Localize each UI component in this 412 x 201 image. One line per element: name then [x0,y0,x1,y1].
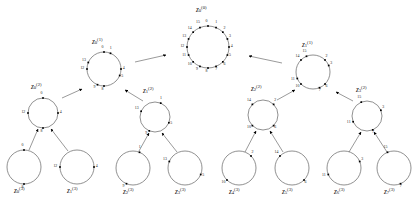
node-point-0 [42,97,44,99]
point-index-label-9: 9 [196,68,198,72]
node-point-14 [279,155,281,157]
point-index-label-6: 6 [305,181,307,185]
point-index-label-0: 0 [102,46,104,50]
node-n9 [116,151,150,185]
node-point-4 [93,166,95,168]
point-index-label-2: 2 [274,99,276,103]
point-index-label-0: 0 [41,92,43,96]
node-n6 [352,101,382,131]
node-point-13 [140,110,142,112]
node-point-14 [192,31,194,33]
node-label-superscript: (2) [36,82,41,87]
node-label-superscript: (2) [148,86,153,91]
node-label-n3: z0(2) [31,83,41,91]
node-label-n5: z2(2) [251,85,261,93]
point-index-label-10: 10 [296,85,300,89]
point-index-label-7: 7 [372,131,374,135]
node-circle [352,101,382,131]
point-index-label-3: 3 [229,35,231,39]
node-circle [140,102,170,132]
point-index-label-11: 11 [182,54,186,58]
edge-arrow-n4-to-n1 [125,90,143,101]
node-point-11 [296,78,298,80]
node-label-n8: z1(3) [67,187,77,195]
point-index-label-9: 9 [93,86,95,90]
node-point-13 [168,161,170,163]
node-label-n14: z7(3) [384,188,394,196]
node-point-0 [23,149,25,151]
node-point-1 [139,151,141,153]
node-point-2 [273,104,275,106]
node-label-superscript: (2) [361,85,366,90]
node-label-n2: z1(1) [302,41,312,49]
node-point-4 [57,112,59,114]
node-point-1 [160,102,162,104]
point-index-label-0: 0 [206,20,208,24]
node-label-superscript: (3) [287,187,292,192]
point-index-label-13: 13 [82,59,86,63]
point-index-label-2: 2 [252,151,254,155]
node-n1 [86,51,122,87]
point-index-label-12: 12 [21,111,25,115]
node-label-n13: z6(3) [334,188,344,196]
node-n4 [140,102,170,132]
point-index-label-12: 12 [53,165,57,169]
node-label-n1: z0(1) [92,38,102,46]
node-circle [87,52,121,86]
node-point-12 [59,166,61,168]
edge-arrow-n13-to-n6 [349,132,361,152]
node-point-12 [186,46,188,48]
node-circle [28,98,58,128]
point-index-label-1: 1 [139,146,141,150]
node-label-superscript: (3) [389,187,394,192]
point-index-label-3: 3 [382,106,384,110]
node-n14 [377,151,411,185]
node-n11 [222,151,256,185]
point-index-label-14: 14 [247,99,251,103]
node-point-11 [327,174,329,176]
point-index-label-8: 8 [41,130,43,134]
node-point-4 [228,46,230,48]
point-index-label-0: 0 [22,144,24,148]
node-label-superscript: (3) [19,186,24,191]
node-point-9 [97,84,99,86]
point-index-label-15: 15 [383,146,387,150]
point-index-label-10: 10 [188,63,192,67]
node-point-10 [226,179,228,181]
node-n3 [27,97,59,129]
point-index-label-5: 5 [121,75,123,79]
node-point-10 [192,61,194,63]
node-circle [168,151,202,185]
node-label-superscript: (3) [128,187,133,192]
point-index-label-15: 15 [357,96,361,100]
point-index-label-13: 13 [182,35,186,39]
point-index-label-8: 8 [206,70,208,74]
point-index-label-9: 9 [145,132,147,136]
node-point-11 [352,121,354,123]
point-index-label-5: 5 [170,122,172,126]
node-point-2 [222,31,224,33]
point-index-label-11: 11 [347,121,351,125]
node-n7 [7,149,41,185]
point-index-label-6: 6 [223,63,225,67]
point-index-label-7: 7 [215,68,217,72]
node-label-superscript: (3) [180,187,185,192]
point-index-label-13: 13 [135,107,139,111]
point-index-label-7: 7 [400,185,402,189]
point-index-label-8: 8 [102,88,104,92]
node-circle [60,150,94,184]
edge-arrow-n8-to-n3 [51,129,68,151]
point-index-label-13: 13 [163,158,167,162]
point-index-label-6: 6 [274,126,276,130]
point-index-label-2: 2 [223,27,225,31]
node-n13 [327,151,361,185]
node-label-superscript: (3) [72,186,77,191]
point-index-label-4: 4 [231,45,233,49]
point-index-label-6: 6 [326,85,328,89]
node-label-n11: z4(3) [229,188,239,196]
point-index-label-10: 10 [222,181,226,185]
node-label-n4: z1(2) [143,87,153,95]
diagram-svg [0,0,412,201]
node-label-superscript: (1) [307,40,312,45]
point-index-label-5: 5 [202,174,204,178]
